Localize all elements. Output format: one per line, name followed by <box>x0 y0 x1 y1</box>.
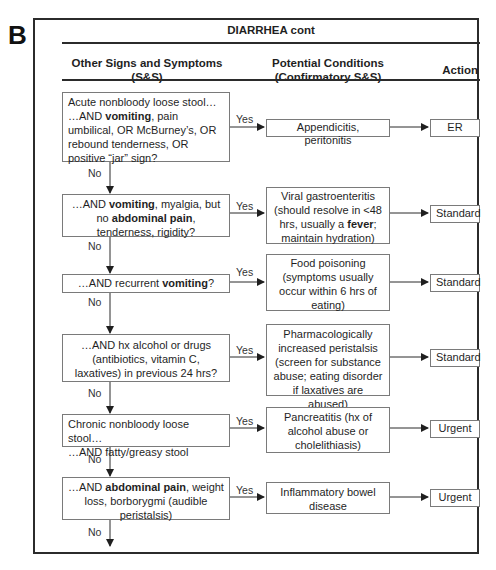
question-box-ibd: …AND abdominal pain, weight loss, borbor… <box>62 477 230 520</box>
no-label: No <box>88 240 101 252</box>
condition-text: Viral gastroenteritis (should resolve in… <box>274 190 382 244</box>
condition-box-pancreatitis: Pancreatitis (hx of alcohol abuse or cho… <box>266 407 390 453</box>
condition-box-inflammatory-bowel-disease: Inflammatory bowel disease <box>266 482 390 514</box>
yes-label: Yes <box>236 113 253 125</box>
yes-label: Yes <box>236 344 253 356</box>
no-label: No <box>88 453 101 465</box>
question-text: …AND recurrent vomiting? <box>78 277 214 289</box>
no-label: No <box>88 296 101 308</box>
question-box-chronic-fatty-stool: Chronic nonbloody loose stool……AND fatty… <box>62 414 230 447</box>
yes-label: Yes <box>236 266 253 278</box>
question-box-viral: …AND vomiting, myalgia, but no abdominal… <box>62 194 230 237</box>
action-box-urgent: Urgent <box>430 489 480 507</box>
condition-box-pharmacological-peristalsis: Pharmacologically increased peristalsis … <box>266 324 390 396</box>
action-box-standard: Standard <box>430 349 480 367</box>
yes-label: Yes <box>236 200 253 212</box>
question-text: …AND hx alcohol or drugs (antibiotics, v… <box>75 339 217 379</box>
yes-label: Yes <box>236 484 253 496</box>
no-label: No <box>88 526 101 538</box>
action-box-urgent: Urgent <box>430 420 480 438</box>
condition-box-viral-gastroenteritis: Viral gastroenteritis (should resolve in… <box>266 187 390 244</box>
question-text: Acute nonbloody loose stool……AND vomitin… <box>68 96 217 164</box>
question-box-alcohol-drugs: …AND hx alcohol or drugs (antibiotics, v… <box>62 334 230 382</box>
action-box-er: ER <box>430 119 480 137</box>
question-text: Chronic nonbloody loose stool……AND fatty… <box>68 418 189 458</box>
yes-label: Yes <box>236 415 253 427</box>
action-box-standard: Standard <box>430 205 480 223</box>
no-label: No <box>88 167 101 179</box>
question-box-recurrent-vomiting: …AND recurrent vomiting? <box>62 274 230 293</box>
no-label: No <box>88 387 101 399</box>
action-box-standard: Standard <box>430 274 480 292</box>
question-text: …AND vomiting, myalgia, but no abdominal… <box>72 198 221 238</box>
question-text: …AND abdominal pain, weight loss, borbor… <box>68 481 224 521</box>
question-box-acute-vomiting-pain: Acute nonbloody loose stool……AND vomitin… <box>62 92 230 162</box>
condition-box-appendicitis: Appendicitis, peritonitis <box>266 119 390 137</box>
condition-box-food-poisoning: Food poisoning (symptoms usually occur w… <box>266 254 390 311</box>
